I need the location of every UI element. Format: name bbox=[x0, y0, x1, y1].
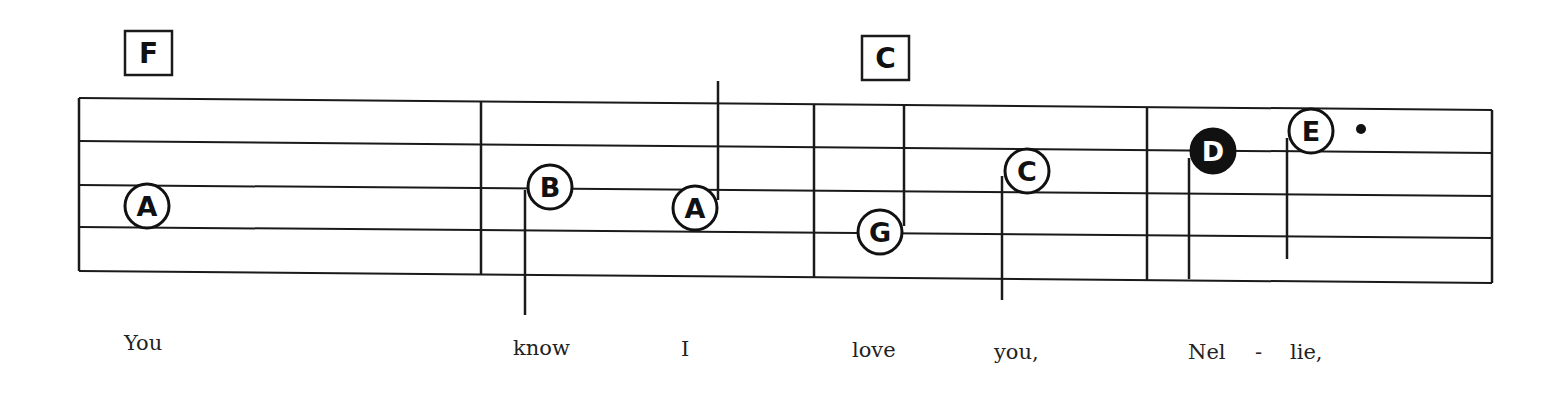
lyric-syllable: know bbox=[513, 336, 570, 360]
lyric-syllable: I bbox=[681, 337, 689, 361]
chord-label: C bbox=[875, 42, 896, 75]
note-letter: E bbox=[1302, 116, 1320, 147]
note-letter: B bbox=[540, 172, 561, 203]
staff bbox=[79, 98, 1492, 283]
note-d: D bbox=[1191, 129, 1235, 173]
lyric-syllable: Nel bbox=[1188, 340, 1226, 364]
note-letter: A bbox=[137, 191, 158, 222]
note-a: A bbox=[125, 184, 169, 228]
lyrics: YouknowIloveyou,Nel-lie, bbox=[123, 331, 1323, 364]
dot-icon bbox=[1356, 124, 1366, 134]
staff-line bbox=[79, 227, 1492, 238]
staff-line bbox=[79, 98, 1492, 110]
rhythm-dots bbox=[1356, 124, 1366, 134]
lyric-syllable: love bbox=[852, 338, 896, 362]
note-a: A bbox=[673, 186, 717, 230]
chord-symbol-c: C bbox=[862, 36, 909, 80]
chord-label: F bbox=[139, 37, 158, 70]
barlines bbox=[481, 101, 1147, 280]
note-letter: C bbox=[1017, 156, 1037, 187]
music-score: FC ABAGCDE YouknowIloveyou,Nel-lie, bbox=[0, 0, 1545, 395]
staff-line bbox=[79, 141, 1492, 153]
note-c: C bbox=[1005, 149, 1049, 193]
note-letter: D bbox=[1202, 136, 1224, 167]
note-g: G bbox=[858, 210, 902, 254]
note-e: E bbox=[1289, 109, 1333, 153]
staff-line bbox=[79, 271, 1492, 283]
staff-line bbox=[79, 185, 1492, 196]
note-b: B bbox=[528, 165, 572, 209]
lyric-syllable: You bbox=[123, 331, 162, 355]
note-letter: A bbox=[685, 193, 706, 224]
note-letter: G bbox=[869, 217, 891, 248]
lyric-syllable: lie, bbox=[1290, 340, 1323, 364]
chord-symbol-f: F bbox=[125, 31, 172, 75]
lyric-syllable: you, bbox=[993, 340, 1039, 364]
lyric-syllable: - bbox=[1255, 340, 1262, 364]
chord-symbols: FC bbox=[125, 31, 909, 80]
